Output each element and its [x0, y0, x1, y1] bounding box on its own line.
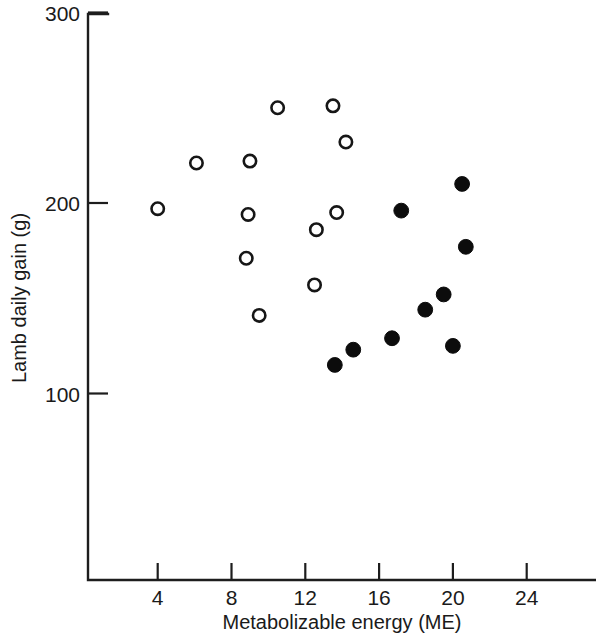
x-axis-ticks — [158, 563, 527, 580]
x-axis-title: Metabolizable energy (ME) — [223, 611, 462, 633]
x-axis-tick-labels: 4812162024 — [152, 586, 539, 609]
data-point-filled — [346, 342, 361, 357]
data-point-open — [244, 155, 256, 167]
data-series-filled-circles — [327, 177, 473, 373]
y-axis-title: Lamb daily gain (g) — [8, 213, 30, 383]
data-point-filled — [446, 338, 461, 353]
data-point-filled — [394, 203, 409, 218]
x-tick-label: 12 — [294, 586, 317, 609]
data-point-open — [240, 252, 252, 264]
data-point-filled — [418, 302, 433, 317]
y-tick-label: 100 — [45, 383, 80, 406]
y-axis-ticks — [88, 13, 108, 394]
x-tick-label: 16 — [367, 586, 390, 609]
data-series-open-circles — [152, 100, 353, 322]
y-tick-label: 300 — [45, 2, 80, 25]
y-tick-label: 200 — [45, 192, 80, 215]
data-point-open — [190, 157, 202, 169]
data-point-filled — [458, 239, 473, 254]
data-point-open — [242, 208, 254, 220]
data-point-filled — [436, 287, 451, 302]
x-tick-label: 20 — [441, 586, 464, 609]
data-point-filled — [327, 358, 342, 373]
data-point-filled — [385, 331, 400, 346]
data-point-filled — [455, 177, 470, 192]
x-tick-label: 8 — [226, 586, 238, 609]
x-tick-label: 24 — [515, 586, 539, 609]
plot-canvas: 100200300 4812162024 Metabolizable energ… — [0, 0, 596, 642]
data-point-open — [340, 136, 352, 148]
y-axis-tick-labels: 100200300 — [45, 2, 80, 406]
data-point-open — [327, 100, 339, 112]
scatter-plot-figure: 100200300 4812162024 Metabolizable energ… — [0, 0, 596, 642]
axis-lines — [88, 14, 596, 580]
data-point-open — [253, 309, 265, 321]
data-point-open — [310, 223, 322, 235]
data-point-open — [308, 279, 320, 291]
data-point-open — [271, 102, 283, 114]
x-tick-label: 4 — [152, 586, 164, 609]
data-point-open — [330, 206, 342, 218]
data-point-open — [152, 203, 164, 215]
